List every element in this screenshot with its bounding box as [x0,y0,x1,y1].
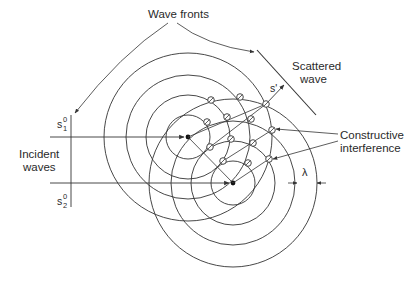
s1-superscript: 0 [63,115,67,124]
incident-waves-label-line2: waves [22,161,56,173]
s1-label: s [57,118,62,130]
x-ray-scattering-diagram: Wave fronts Scattered wave Constructive … [0,0,411,281]
incident-waves-label-line1: Incident [19,148,60,160]
s2-superscript: 0 [63,192,67,201]
scattered-wave-label-line2: wave [299,73,327,85]
constructive-label-line1: Constructive [340,129,404,141]
s1-subscript: 1 [63,124,67,133]
lambda-label: λ [302,166,308,178]
scatter-direction-line-2 [210,104,266,147]
s2-subscript: 2 [63,201,67,210]
scattered-wave-label-line1: Scattered [292,60,341,72]
wave-fronts-leader-left [75,23,168,113]
wave-fronts-leader-right [177,23,254,52]
constructive-label-line2: interference [340,142,401,154]
s2-label: s [57,195,62,207]
constructive-leader-2 [273,141,338,159]
wave-fronts-label: Wave fronts [148,8,209,20]
s-prime-label: s' [270,82,277,94]
constructive-leader-1 [276,129,338,134]
